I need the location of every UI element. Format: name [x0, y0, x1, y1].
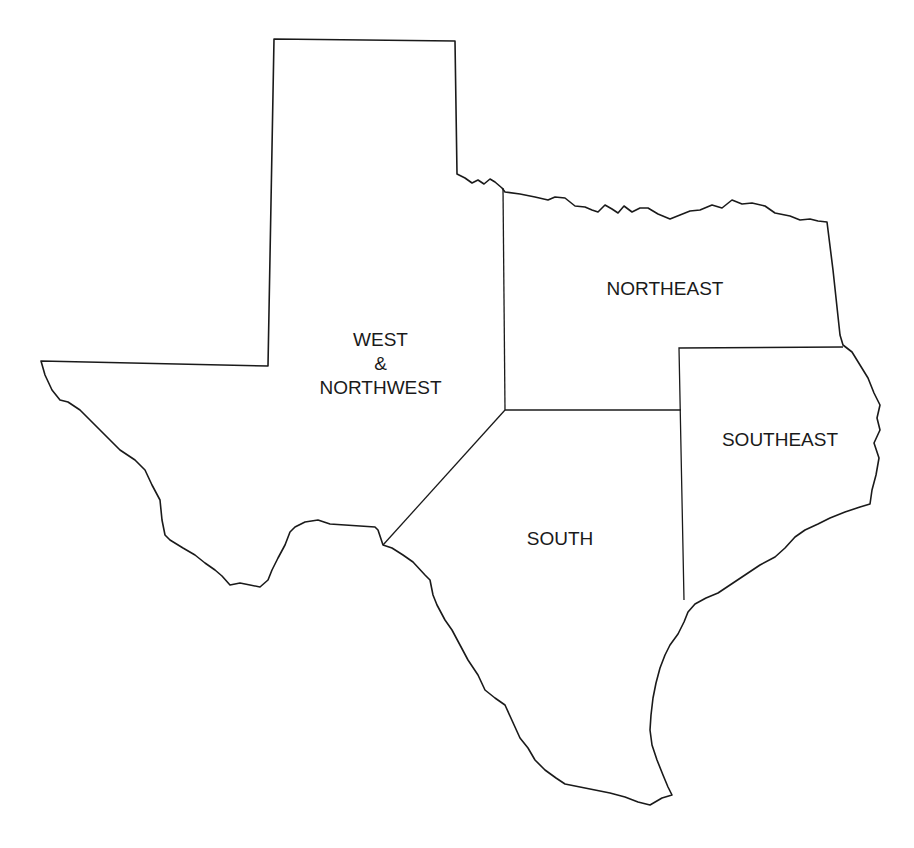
- divider-southeast-box: [679, 347, 843, 600]
- region-label-west-northwest: WEST & NORTHWEST: [303, 328, 458, 400]
- divider-west-south: [383, 410, 505, 545]
- region-label-south: SOUTH: [505, 527, 615, 551]
- region-label-southeast: SOUTHEAST: [705, 428, 855, 452]
- texas-map: [0, 0, 914, 848]
- region-label-northeast: NORTHEAST: [585, 277, 745, 301]
- label-line: NORTHWEST: [303, 376, 458, 400]
- state-outline: [41, 39, 880, 805]
- label-line: WEST: [303, 328, 458, 352]
- label-line: SOUTH: [505, 527, 615, 551]
- divider-west-northeast: [503, 188, 505, 410]
- label-line: SOUTHEAST: [705, 428, 855, 452]
- label-line: NORTHEAST: [585, 277, 745, 301]
- label-line: &: [303, 352, 458, 376]
